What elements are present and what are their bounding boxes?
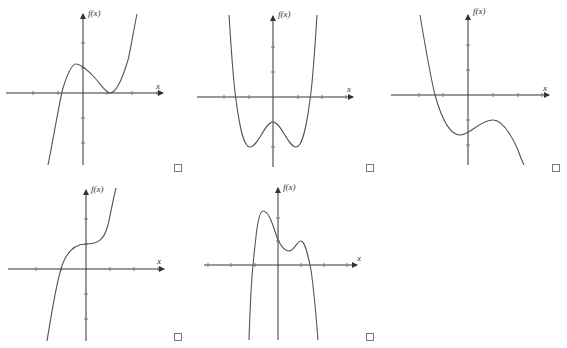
x-axis-label: x <box>156 256 161 266</box>
curve <box>47 188 116 341</box>
y-axis-label: f(x) <box>91 184 104 194</box>
checkbox-graph-b[interactable] <box>366 164 374 172</box>
curve <box>249 211 318 340</box>
x-axis-label: x <box>346 84 351 94</box>
checkbox-graph-c[interactable] <box>552 164 560 172</box>
y-axis-label: f(x) <box>473 6 486 16</box>
graphs-canvas: f(x) x f(x) x f(x) x <box>0 0 567 348</box>
checkbox-graph-d[interactable] <box>174 333 182 341</box>
graph-d: f(x) x <box>8 184 164 341</box>
x-axis-label: x <box>155 81 160 91</box>
checkbox-graph-e[interactable] <box>366 333 374 341</box>
curve <box>48 14 137 165</box>
curve <box>420 15 524 165</box>
graph-c: f(x) x <box>391 6 549 165</box>
x-axis-label: x <box>542 83 547 93</box>
graph-b: f(x) x <box>197 9 353 167</box>
checkbox-graph-a[interactable] <box>174 164 182 172</box>
graph-e: f(x) x <box>204 182 361 340</box>
x-axis-label: x <box>356 253 361 263</box>
y-axis-label: f(x) <box>278 9 291 19</box>
y-axis-label: f(x) <box>283 182 296 192</box>
y-axis-label: f(x) <box>88 8 101 18</box>
graph-a: f(x) x <box>6 8 163 165</box>
